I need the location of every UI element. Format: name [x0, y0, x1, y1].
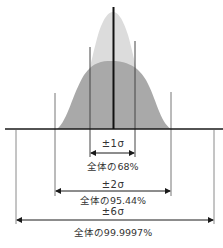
range-caption-2sigma: 全体の95.44%	[80, 196, 146, 206]
range-label-1sigma: ±1σ	[102, 139, 125, 149]
normal-distribution-diagram: ±1σ 全体の68% ±2σ 全体の95.44% ±6σ 全体の99.9997%	[0, 0, 223, 248]
range-caption-1sigma: 全体の68%	[87, 162, 138, 172]
range-label-2sigma: ±2σ	[102, 180, 125, 190]
range-label-6sigma: ±6σ	[102, 207, 125, 217]
range-caption-6sigma: 全体の99.9997%	[74, 228, 152, 238]
